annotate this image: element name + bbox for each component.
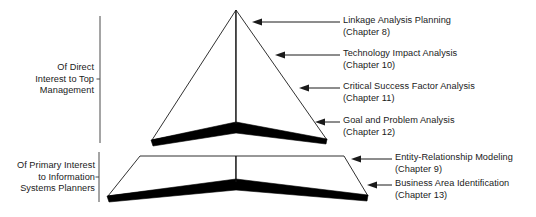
upper-pyramid-left-face (152, 10, 236, 140)
bracket-is-planners (96, 152, 100, 202)
callout-title: Business Area Identification (395, 178, 509, 190)
callout-business-area-identification: Business Area Identification (Chapter 13… (395, 178, 509, 201)
leader-line-goal-and-problem-analysis (315, 118, 340, 125)
upper-pyramid-right-face (236, 10, 327, 140)
callout-chapter: (Chapter 13) (395, 190, 509, 202)
diagram-canvas: Of Direct Interest to Top Management Of … (0, 0, 536, 217)
callout-title: Technology Impact Analysis (343, 48, 457, 60)
leader-line-entity-relationship-modeling (351, 155, 392, 162)
callout-critical-success-factor-analysis: Critical Success Factor Analysis (Chapte… (343, 81, 475, 104)
callout-chapter: (Chapter 10) (343, 60, 457, 72)
callout-title: Critical Success Factor Analysis (343, 81, 475, 93)
leader-line-technology-impact-analysis (275, 51, 340, 58)
callout-chapter: (Chapter 8) (343, 27, 451, 39)
bracket-label-is-planners: Of Primary Interest to Information Syste… (0, 160, 95, 195)
bracket-label-top-management: Of Direct Interest to Top Management (8, 62, 94, 97)
callout-entity-relationship-modeling: Entity-Relationship Modeling (Chapter 9) (395, 152, 513, 175)
callout-chapter: (Chapter 12) (343, 127, 455, 139)
bracket-top-management (97, 16, 101, 143)
leader-line-linkage-analysis-planning (252, 18, 340, 25)
callout-title: Goal and Problem Analysis (343, 115, 455, 127)
callout-linkage-analysis-planning: Linkage Analysis Planning (Chapter 8) (343, 15, 451, 38)
callout-title: Entity-Relationship Modeling (395, 152, 513, 164)
leader-line-business-area-identification (367, 181, 392, 188)
leader-line-critical-success-factor-analysis (299, 84, 340, 91)
callout-chapter: (Chapter 9) (395, 164, 513, 176)
callout-technology-impact-analysis: Technology Impact Analysis (Chapter 10) (343, 48, 457, 71)
callout-title: Linkage Analysis Planning (343, 15, 451, 27)
callout-chapter: (Chapter 11) (343, 93, 475, 105)
callout-goal-and-problem-analysis: Goal and Problem Analysis (Chapter 12) (343, 115, 455, 138)
